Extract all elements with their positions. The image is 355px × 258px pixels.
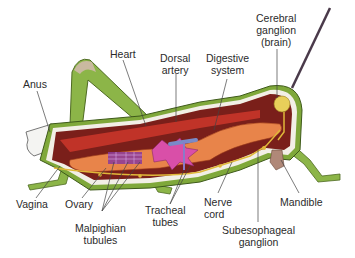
label-nerve-cord: Nerve cord [204,196,232,220]
label-tracheal-tubes: Tracheal tubes [145,204,185,228]
label-text: system [206,64,249,76]
label-text: ganglion [222,236,295,248]
label-text: Tracheal [145,204,185,216]
label-malpighian-tubules: Malpighian tubules [75,222,126,246]
label-mandible: Mandible [280,196,323,208]
label-text: Cerebral [256,12,296,24]
label-digestive-system: Digestive system [206,52,249,76]
label-vagina: Vagina [16,198,48,210]
label-text: Nerve [204,196,232,208]
label-heart: Heart [110,48,136,60]
label-text: (brain) [256,36,296,48]
label-text: cord [204,208,232,220]
label-text: tubes [145,216,185,228]
label-text: artery [160,64,190,76]
label-text: Anus [23,78,47,90]
grasshopper-anatomy-diagram: Anus Heart Dorsal artery Digestive syste… [0,0,355,258]
label-text: Subesophageal [222,224,295,236]
label-text: Heart [110,48,136,60]
label-ovary: Ovary [65,198,93,210]
label-subesophageal-ganglion: Subesophageal ganglion [222,224,295,248]
label-cerebral-ganglion: Cerebral ganglion (brain) [256,12,296,48]
label-text: Ovary [65,198,93,210]
label-text: tubules [75,234,126,246]
label-text: Digestive [206,52,249,64]
label-text: Vagina [16,198,48,210]
label-text: Malpighian [75,222,126,234]
label-text: Dorsal [160,52,190,64]
label-dorsal-artery: Dorsal artery [160,52,190,76]
label-text: Mandible [280,196,323,208]
label-anus: Anus [23,78,47,90]
label-text: ganglion [256,24,296,36]
